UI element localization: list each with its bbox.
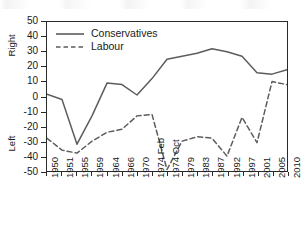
x-tick-label: 1959 <box>95 157 105 178</box>
x-tick-mark <box>288 172 289 176</box>
legend-label-conservatives: Conservatives <box>91 28 158 39</box>
x-tick-mark <box>137 172 138 176</box>
x-tick-label: 1979 <box>186 157 196 178</box>
x-tick-label: 1992 <box>232 157 242 178</box>
x-tick-label: 1983 <box>201 157 211 178</box>
x-tick-mark <box>107 172 108 176</box>
chart-figure: Right Left 50403020100-10-20-30-40-50 19… <box>0 0 305 230</box>
x-tick-label: 1974 Oct <box>171 139 181 178</box>
x-tick-label: 1987 <box>216 157 226 178</box>
x-tick-mark <box>228 172 229 176</box>
x-tick-label: 1955 <box>80 157 90 178</box>
chart-legend: Conservatives Labour <box>56 27 186 53</box>
legend-swatch-solid-icon <box>56 29 84 39</box>
x-tick-label: 1964 <box>111 157 121 178</box>
x-tick-label: 2010 <box>292 157 302 178</box>
x-tick-label: 2001 <box>262 157 272 178</box>
x-tick-mark <box>46 172 47 176</box>
x-tick-mark <box>212 172 213 176</box>
x-tick-mark <box>61 172 62 176</box>
x-tick-mark <box>122 172 123 176</box>
x-tick-mark <box>76 172 77 176</box>
x-tick-label: 1966 <box>126 157 136 178</box>
x-tick-label: 1951 <box>65 157 75 178</box>
x-tick-mark <box>197 172 198 176</box>
legend-item-conservatives: Conservatives <box>56 27 186 40</box>
x-tick-mark <box>273 172 274 176</box>
x-tick-label: 2005 <box>277 157 287 178</box>
x-tick-mark <box>152 172 153 176</box>
legend-item-labour: Labour <box>56 40 186 53</box>
x-tick-label: 1974 Feb <box>156 138 166 178</box>
x-tick-mark <box>182 172 183 176</box>
x-tick-label: 1950 <box>50 157 60 178</box>
x-tick-label: 1970 <box>141 157 151 178</box>
x-tick-mark <box>91 172 92 176</box>
x-tick-label: 1997 <box>247 157 257 178</box>
x-tick-mark <box>258 172 259 176</box>
x-tick-mark <box>167 172 168 176</box>
legend-label-labour: Labour <box>91 41 124 52</box>
legend-swatch-dashed-icon <box>56 42 84 52</box>
x-tick-mark <box>243 172 244 176</box>
